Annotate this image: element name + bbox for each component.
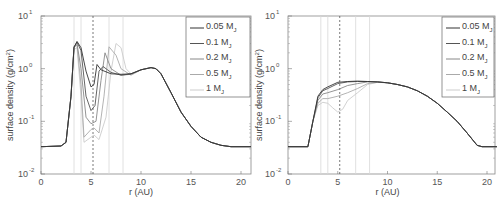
y-tick-label: 10	[265, 116, 275, 126]
y-tick-exponent: -2	[276, 167, 282, 173]
y-tick-exponent: 1	[29, 9, 33, 15]
y-tick-label: 10	[265, 64, 275, 74]
y-tick-exponent: 0	[276, 62, 280, 68]
x-tick-label: 5	[335, 177, 340, 187]
x-tick-label: 5	[88, 177, 93, 187]
chart-panel-left: 05101520r (AU)10-210-1100101surface dens…	[5, 9, 251, 197]
x-tick-label: 15	[432, 177, 442, 187]
y-tick-exponent: 0	[29, 62, 33, 68]
y-tick-exponent: -1	[276, 114, 282, 120]
y-tick-exponent: 1	[276, 9, 280, 15]
x-tick-label: 10	[382, 177, 392, 187]
x-tick-label: 20	[236, 177, 246, 187]
y-tick-exponent: -2	[29, 167, 35, 173]
x-tick-label: 10	[136, 177, 146, 187]
x-tick-label: 0	[285, 177, 290, 187]
chart-figure: 05101520r (AU)10-210-1100101surface dens…	[0, 0, 504, 205]
chart-panel-right: 05101520r (AU)10-210-1100101surface dens…	[254, 9, 497, 197]
y-tick-label: 10	[18, 11, 28, 21]
y-tick-label: 10	[18, 116, 28, 126]
x-tick-label: 20	[482, 177, 492, 187]
y-tick-label: 10	[18, 169, 28, 179]
y-axis-label: surface density (g/cm2)	[5, 49, 15, 141]
legend: 0.05 MJ0.1 MJ0.2 MJ0.5 MJ1 MJ	[186, 17, 250, 97]
x-tick-label: 0	[38, 177, 43, 187]
y-tick-label: 10	[265, 169, 275, 179]
x-tick-label: 15	[186, 177, 196, 187]
y-tick-label: 10	[18, 64, 28, 74]
legend: 0.05 MJ0.1 MJ0.2 MJ0.5 MJ1 MJ	[442, 17, 494, 97]
x-axis-label: r (AU)	[129, 187, 153, 197]
y-tick-exponent: -1	[29, 114, 35, 120]
x-axis-label: r (AU)	[376, 187, 400, 197]
y-tick-label: 10	[265, 11, 275, 21]
y-axis-label: surface density (g/cm2)	[254, 49, 264, 141]
